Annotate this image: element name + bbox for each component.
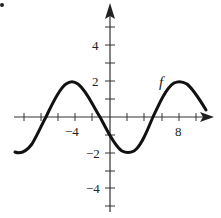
y-tick-label-2: 2 [92,74,99,89]
function-label-f: f [159,74,165,90]
x-tick-label-neg4: −4 [65,124,79,139]
y-tick-label-4: 4 [92,38,99,53]
bullet-dot [0,3,4,7]
y-tick-label-neg4: −4 [86,181,100,196]
y-tick-label-neg2: −2 [86,146,100,161]
function-graph: −4 8 4 2 −2 −4 f [0,0,221,218]
x-tick-label-8: 8 [175,124,182,139]
